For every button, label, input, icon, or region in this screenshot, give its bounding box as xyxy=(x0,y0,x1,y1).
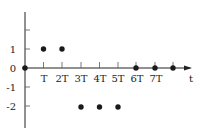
data-point xyxy=(41,46,46,51)
y-tick-label: 1 xyxy=(10,44,16,55)
x-tick-label: 3T xyxy=(74,73,87,84)
data-point xyxy=(78,104,83,109)
x-tick-label: 5T xyxy=(111,73,124,84)
data-point xyxy=(133,65,138,70)
x-tick-label: 6T xyxy=(130,73,143,84)
data-point xyxy=(115,104,120,109)
data-point xyxy=(170,65,175,70)
y-tick-label: 0 xyxy=(10,63,16,74)
x-tick-label: 4T xyxy=(93,73,106,84)
x-tick-label: T xyxy=(41,73,48,84)
data-point xyxy=(22,65,27,70)
data-point xyxy=(97,104,102,109)
data-point xyxy=(152,65,157,70)
data-point xyxy=(59,46,64,51)
x-axis-label: t xyxy=(189,73,193,84)
y-tick-label: -2 xyxy=(6,101,16,112)
discrete-signal-plot: 1 0 -1 -2 T 2T 3T 4T 5T 6T 7T t xyxy=(0,0,203,129)
x-axis-arrow-icon xyxy=(184,66,192,71)
y-tick-label: -1 xyxy=(6,82,16,93)
x-tick-label: 7T xyxy=(149,73,162,84)
x-tick-label: 2T xyxy=(55,73,68,84)
